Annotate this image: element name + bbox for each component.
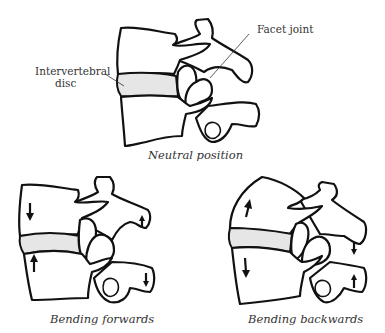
panel-neutral: Facet joint Intervertebral disc Neutral … [35, 19, 314, 162]
caption-bending-backwards: Bending backwards [247, 312, 363, 326]
vertebral-foramen [103, 278, 118, 296]
caption-neutral: Neutral position [147, 148, 243, 162]
vertebral-foramen [205, 122, 220, 138]
panel-bending-forwards: Bending forwards [19, 177, 154, 326]
vertebral-foramen [315, 280, 330, 296]
disc-label-line2: disc [55, 77, 76, 89]
intervertebral-disc [117, 73, 178, 97]
facet-joint-label: Facet joint [257, 23, 314, 35]
panel-bending-backwards: Bending backwards [229, 177, 366, 326]
caption-bending-forwards: Bending forwards [49, 312, 154, 326]
vertebrae-diagram: Facet joint Intervertebral disc Neutral … [0, 0, 385, 333]
disc-label-line1: Intervertebral [35, 65, 111, 77]
